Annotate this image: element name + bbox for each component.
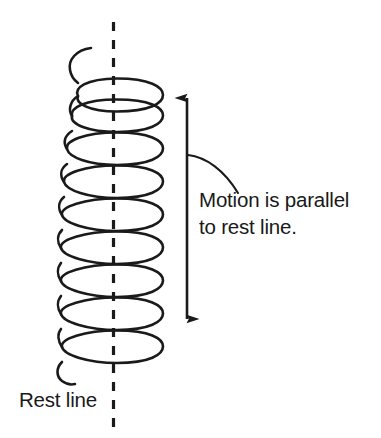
spring-coil xyxy=(58,48,164,384)
rest-line-label: Rest line xyxy=(19,387,97,412)
motion-caption: Motion is parallel to rest line. xyxy=(199,186,381,240)
